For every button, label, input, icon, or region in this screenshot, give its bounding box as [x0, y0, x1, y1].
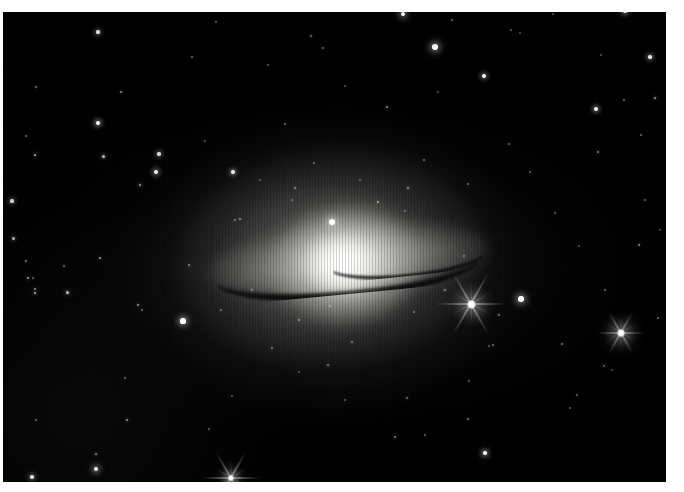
star	[554, 212, 556, 214]
bright-star-core	[617, 329, 625, 337]
star	[329, 219, 335, 225]
star	[32, 277, 34, 279]
sombrero-galaxy	[3, 12, 666, 482]
star	[124, 377, 126, 379]
star	[640, 134, 642, 136]
star	[600, 54, 602, 56]
star	[594, 107, 598, 111]
star	[231, 395, 233, 397]
star	[157, 152, 160, 155]
star	[208, 428, 210, 430]
star	[451, 19, 453, 21]
star	[644, 199, 646, 201]
star	[432, 44, 438, 50]
star	[603, 365, 605, 367]
star	[518, 296, 524, 302]
star	[611, 369, 613, 371]
star	[141, 309, 143, 311]
bright-star-core	[467, 300, 476, 309]
star	[191, 56, 193, 58]
star	[468, 380, 470, 382]
star	[604, 289, 606, 291]
star	[552, 13, 554, 15]
star	[623, 99, 625, 101]
star	[578, 245, 580, 247]
star	[35, 419, 37, 421]
star	[519, 32, 521, 34]
star	[424, 434, 426, 436]
star	[102, 155, 105, 158]
star	[96, 30, 99, 33]
star	[404, 210, 406, 212]
star	[413, 311, 415, 313]
star	[344, 85, 346, 87]
star	[259, 179, 261, 181]
star	[204, 140, 206, 142]
star	[322, 47, 324, 49]
star	[267, 64, 269, 66]
image-canvas	[0, 0, 684, 492]
star	[423, 159, 425, 161]
star	[35, 86, 37, 88]
star	[510, 29, 512, 31]
star	[310, 35, 312, 37]
star	[25, 135, 27, 137]
star	[271, 347, 273, 349]
star	[467, 183, 469, 185]
star	[30, 475, 34, 479]
star	[220, 309, 222, 311]
star	[12, 237, 15, 240]
star	[251, 289, 253, 291]
star	[657, 317, 659, 319]
bright-star-core	[228, 475, 234, 481]
star	[529, 171, 531, 173]
star	[231, 170, 235, 174]
star	[298, 371, 300, 373]
star	[492, 344, 494, 346]
star	[508, 143, 510, 145]
star	[313, 162, 315, 164]
star	[180, 318, 185, 323]
star	[463, 255, 465, 257]
star	[234, 219, 236, 221]
star	[359, 179, 361, 181]
star	[154, 170, 158, 174]
star	[482, 74, 486, 78]
star	[66, 291, 69, 294]
star	[659, 229, 661, 231]
star	[648, 55, 652, 59]
star	[329, 305, 331, 307]
sombrero-galaxy-photograph	[3, 12, 666, 482]
star	[488, 345, 490, 347]
star	[215, 21, 217, 23]
star	[576, 394, 578, 396]
star	[284, 123, 286, 125]
star	[291, 199, 293, 201]
star	[10, 199, 13, 202]
star	[569, 407, 571, 409]
star	[344, 399, 346, 401]
star	[437, 91, 439, 93]
